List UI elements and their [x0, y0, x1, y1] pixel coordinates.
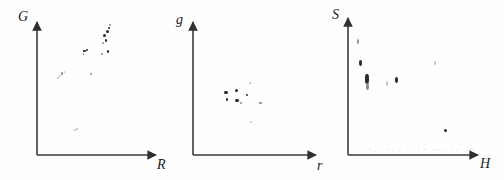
scan-speckle	[381, 150, 383, 151]
data-point	[357, 39, 359, 45]
scan-speckle	[386, 149, 389, 150]
data-point	[107, 50, 110, 53]
scatter-panel-3: S H	[330, 0, 504, 180]
data-point	[226, 98, 229, 101]
scan-speckle	[459, 144, 461, 146]
data-point	[235, 99, 238, 102]
data-point	[106, 30, 109, 33]
scan-speckle	[418, 150, 420, 151]
data-point	[101, 53, 103, 55]
scan-speckle	[423, 144, 425, 146]
scan-speckle	[399, 150, 401, 151]
scan-speckle	[456, 150, 458, 151]
data-point	[83, 53, 85, 55]
scan-speckle	[378, 146, 380, 148]
data-point	[90, 73, 92, 75]
scan-speckle	[432, 150, 434, 151]
data-point	[359, 60, 362, 67]
scan-speckle	[405, 140, 407, 142]
scan-speckle	[432, 142, 434, 144]
scan-speckle	[441, 140, 443, 142]
scan-speckle	[406, 149, 409, 150]
scan-speckle	[423, 149, 426, 150]
scan-speckle	[396, 142, 398, 144]
data-point	[250, 121, 252, 123]
scan-speckle	[375, 151, 376, 152]
panel-1-y-axis-label: G	[18, 10, 28, 24]
scan-speckle	[452, 151, 453, 152]
scatter-panel-1: G R	[0, 0, 170, 180]
panel-1-x-axis-label: R	[157, 158, 166, 172]
scan-speckle	[414, 146, 416, 148]
data-point	[395, 77, 398, 84]
panel-2-y-axis-label: g	[176, 13, 183, 27]
panel-3-y-axis-label: S	[332, 8, 339, 22]
panel-1-plot-area	[37, 22, 156, 155]
data-point	[246, 94, 248, 96]
scan-speckle	[450, 146, 452, 148]
data-point	[224, 91, 227, 94]
data-point	[86, 49, 88, 51]
scan-speckle	[354, 151, 355, 152]
scan-speckle	[449, 149, 452, 150]
data-point	[76, 128, 77, 129]
data-point	[434, 61, 436, 66]
data-point	[235, 89, 238, 92]
data-point	[105, 39, 108, 42]
panel-3-plot-area	[348, 18, 478, 155]
data-point	[102, 42, 104, 44]
panel-2-x-axis-label: r	[317, 159, 322, 173]
scatter-panel-2: g r	[170, 0, 330, 180]
scan-speckle	[427, 151, 428, 152]
scan-speckle	[362, 150, 364, 151]
scan-speckle	[392, 151, 393, 152]
data-point	[74, 129, 76, 131]
scan-speckle	[387, 144, 389, 146]
figure-canvas: G R g r S H	[0, 0, 504, 180]
panel-2-plot-area	[193, 22, 316, 155]
data-point	[103, 34, 106, 37]
panel-3-x-axis-label: H	[480, 157, 490, 171]
data-point	[249, 82, 251, 84]
data-point	[365, 74, 369, 83]
data-point	[386, 81, 388, 86]
data-point	[444, 129, 447, 132]
data-point	[240, 102, 242, 104]
scan-speckle	[467, 150, 469, 151]
data-point	[59, 75, 61, 77]
data-point	[61, 72, 63, 74]
data-point	[366, 83, 368, 89]
scan-speckle	[460, 149, 463, 150]
scan-speckle	[436, 149, 439, 150]
data-point	[109, 24, 111, 26]
scan-speckle	[470, 149, 473, 150]
data-point	[57, 77, 59, 79]
scan-speckle	[464, 151, 465, 152]
scan-speckle	[369, 149, 372, 150]
data-point	[108, 27, 111, 30]
scan-speckle	[441, 151, 442, 152]
data-point	[64, 71, 66, 73]
scan-speckle	[411, 151, 412, 152]
data-point	[259, 102, 261, 104]
scan-speckle	[445, 150, 447, 151]
